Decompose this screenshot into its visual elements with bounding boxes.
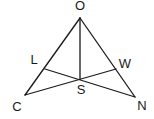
label-S: S [77, 82, 86, 97]
segment-CW [25, 69, 116, 95]
geometry-diagram: O L W S C N [0, 0, 154, 119]
label-W: W [119, 56, 132, 71]
label-N: N [137, 98, 146, 113]
segment-LN [45, 69, 135, 97]
label-C: C [12, 99, 21, 114]
label-L: L [30, 52, 37, 67]
label-O: O [75, 0, 85, 13]
